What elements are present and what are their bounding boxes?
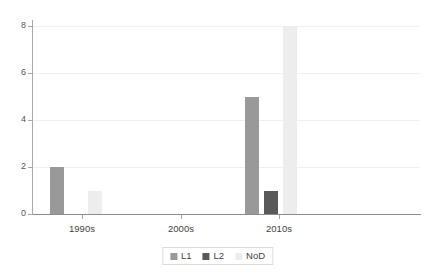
y-axis-line [32, 20, 33, 215]
gridline-2 [33, 167, 420, 168]
y-tick-mark-0 [28, 214, 33, 215]
x-tick-label-2000s: 2000s [146, 223, 216, 234]
y-tick-label-6: 6 [4, 68, 26, 77]
y-tick-mark-6 [28, 73, 33, 74]
bar-2010s-NoD [283, 26, 297, 214]
bar-2010s-L1 [245, 97, 259, 215]
y-tick-label-8: 8 [4, 21, 26, 30]
legend-label-l1: L1 [181, 251, 192, 261]
bar-1990s-L1 [50, 167, 64, 214]
x-tick-label-1990s: 1990s [47, 223, 117, 234]
gridline-6 [33, 73, 420, 74]
x-tick-mark-2010s [279, 215, 280, 219]
x-axis-line [33, 214, 421, 215]
legend-item-nod[interactable]: NoD [235, 251, 265, 261]
y-tick-label-4: 4 [4, 115, 26, 124]
legend-swatch-l2 [202, 253, 209, 260]
x-tick-mark-2000s [181, 215, 182, 219]
legend-label-l2: L2 [213, 251, 224, 261]
y-tick-mark-2 [28, 167, 33, 168]
x-tick-label-2010s: 2010s [244, 223, 314, 234]
plot-area [33, 26, 420, 214]
y-tick-label-2: 2 [4, 162, 26, 171]
gridline-4 [33, 120, 420, 121]
chart-legend: L1 L2 NoD [162, 247, 273, 265]
bar-1990s-NoD [88, 191, 102, 215]
y-tick-mark-8 [28, 26, 33, 27]
y-tick-label-0: 0 [4, 209, 26, 218]
gridline-8 [33, 26, 420, 27]
bar-2010s-L2 [264, 191, 278, 215]
legend-item-l1[interactable]: L1 [170, 251, 192, 261]
bar-chart: 8 6 4 2 0 1990s 2000s 2010s L1 L2 NoD [0, 0, 435, 278]
legend-swatch-nod [235, 253, 242, 260]
legend-label-nod: NoD [246, 251, 265, 261]
x-tick-mark-1990s [82, 215, 83, 219]
y-tick-mark-4 [28, 120, 33, 121]
legend-swatch-l1 [170, 253, 177, 260]
legend-item-l2[interactable]: L2 [202, 251, 224, 261]
